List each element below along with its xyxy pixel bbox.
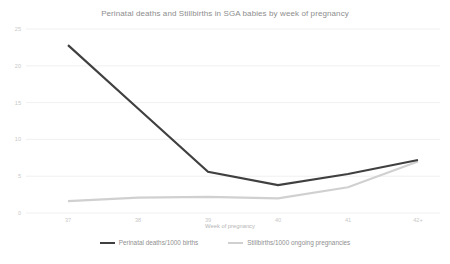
x-axis-tick-label: 40	[275, 217, 281, 223]
series-line-stillbirths	[68, 161, 418, 201]
x-axis-tick-label: 37	[65, 217, 71, 223]
x-axis-tick-label: 42+	[413, 217, 423, 223]
y-axis-tick-labels: 0510152025	[15, 26, 21, 216]
y-axis-tick-label: 25	[15, 26, 21, 32]
legend-swatch-perinatal-deaths	[100, 242, 115, 244]
chart-legend: Perinatal deaths/1000 births Stillbirths…	[0, 240, 450, 246]
legend-label-stillbirths: Stillbirths/1000 ongoing pregnancies	[247, 240, 350, 246]
data-series-group	[68, 45, 418, 201]
legend-item-stillbirths[interactable]: Stillbirths/1000 ongoing pregnancies	[228, 240, 350, 246]
grid-lines	[26, 29, 440, 213]
y-axis-tick-label: 15	[15, 100, 21, 106]
x-axis-tick-label: 41	[345, 217, 351, 223]
chart-container: Perinatal deaths and Stillbirths in SGA …	[0, 0, 450, 264]
y-axis-tick-label: 10	[15, 136, 21, 142]
x-axis-tick-label: 38	[135, 217, 141, 223]
y-axis-tick-label: 5	[18, 173, 21, 179]
y-axis-tick-label: 20	[15, 63, 21, 69]
legend-swatch-stillbirths	[228, 242, 243, 244]
y-axis-tick-label: 0	[18, 210, 21, 216]
x-axis-title: Week of pregnancy	[205, 223, 255, 229]
chart-plot-area: 0510152025 373839404142+ Week of pregnan…	[0, 0, 450, 264]
legend-item-perinatal-deaths[interactable]: Perinatal deaths/1000 births	[100, 240, 199, 246]
legend-label-perinatal-deaths: Perinatal deaths/1000 births	[119, 240, 199, 246]
